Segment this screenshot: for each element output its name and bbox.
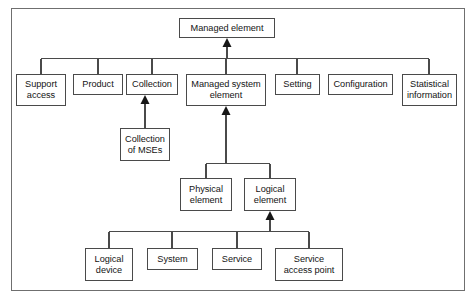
node-physical-element[interactable]: Physical element [180,178,232,211]
node-logical-element[interactable]: Logical element [244,178,296,211]
node-managed-element[interactable]: Managed element [179,18,275,38]
node-collection[interactable]: Collection [126,74,178,95]
node-configuration[interactable]: Configuration [328,74,393,95]
node-setting[interactable]: Setting [275,74,320,95]
diagram-canvas: Managed element Support access Product C… [0,0,475,305]
node-managed-system-element[interactable]: Managed system element [186,74,266,106]
node-service[interactable]: Service [212,248,262,270]
node-product[interactable]: Product [73,74,123,95]
node-collection-of-mses[interactable]: Collection of MSEs [120,128,170,161]
node-logical-device[interactable]: Logical device [85,248,133,281]
node-service-access-point[interactable]: Service access point [275,248,343,281]
node-support-access[interactable]: Support access [16,74,66,106]
node-statistical-information[interactable]: Statistical information [402,74,457,106]
node-system[interactable]: System [147,248,198,270]
